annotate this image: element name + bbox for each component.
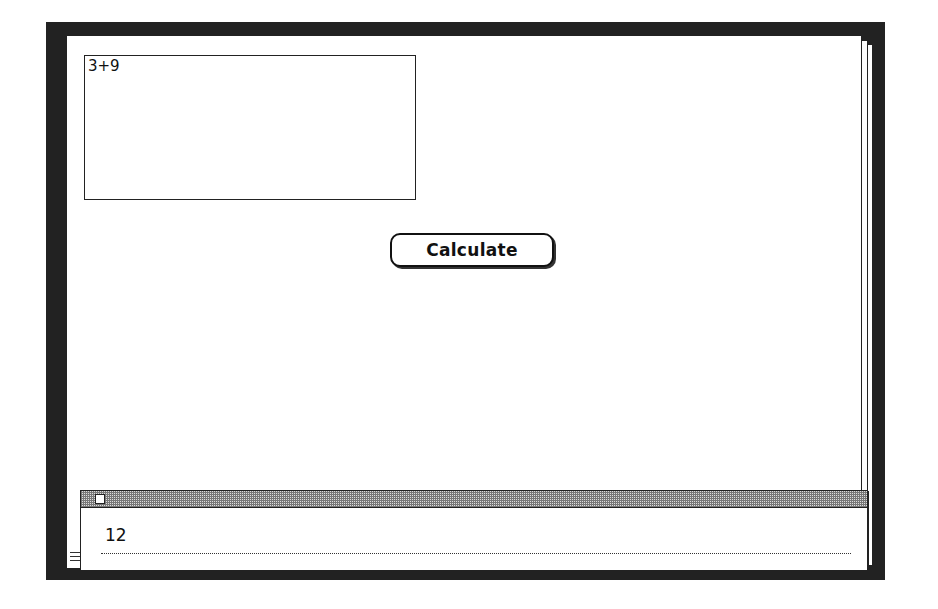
calculate-button[interactable]: Calculate [390, 233, 554, 267]
message-box-titlebar[interactable] [81, 491, 867, 508]
expression-field[interactable]: 3+9 [84, 55, 416, 200]
message-box-dotted-line [101, 553, 851, 554]
message-box-result: 12 [105, 525, 127, 545]
close-box-icon[interactable] [95, 494, 105, 504]
stacked-card-edges [70, 548, 80, 570]
message-box-window: 12 [80, 490, 868, 571]
